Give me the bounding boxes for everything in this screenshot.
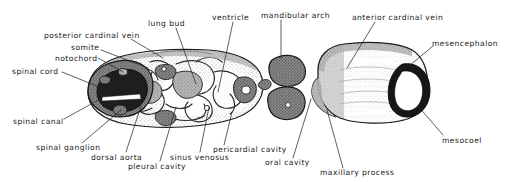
embryo-section-illustration <box>0 0 509 182</box>
label-anterior-cardinal-vein: anterior cardinal vein <box>352 14 443 22</box>
label-spinal-cord: spinal cord <box>12 68 58 76</box>
label-posterior-cardinal-vein: posterior cardinal vein <box>44 32 140 40</box>
label-mesocoel: mesocoel <box>442 137 482 145</box>
mesocoel-lumen <box>395 71 423 111</box>
label-ventricle: ventricle <box>212 14 249 22</box>
leader-mesocoel <box>418 106 443 135</box>
label-spinal-ganglion: spinal ganglion <box>36 144 100 152</box>
label-somite: somite <box>71 44 99 52</box>
label-sinus-venosus: sinus venosus <box>170 154 229 162</box>
label-notochord: notochord <box>55 55 98 63</box>
label-lung-bud: lung bud <box>148 20 185 28</box>
label-dorsal-aorta: dorsal aorta <box>91 154 142 162</box>
anatomical-figure: posterior cardinal veinsomitenotochordsp… <box>0 0 509 182</box>
mandibular-arch-masses <box>258 55 305 119</box>
label-maxillary-process: maxillary process <box>320 169 394 177</box>
label-spinal-canal: spinal canal <box>13 118 64 126</box>
label-mandibular-arch: mandibular arch <box>261 12 330 20</box>
mesencephalon-ring <box>388 64 430 117</box>
label-oral-cavity: oral cavity <box>265 159 310 167</box>
label-mesencephalon: mesencephalon <box>432 40 498 48</box>
label-pleural-cavity: pleural cavity <box>128 163 186 171</box>
